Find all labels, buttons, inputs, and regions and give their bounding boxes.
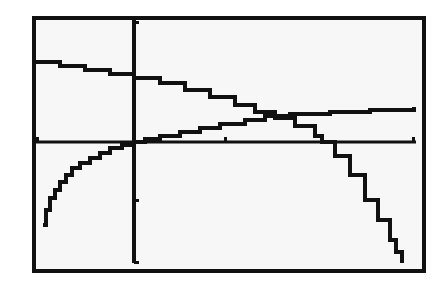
- y-tick: [134, 261, 139, 264]
- x-tick: [412, 137, 415, 142]
- graph-frame: [34, 18, 424, 271]
- calculator-graph-screen: [0, 0, 445, 282]
- y-tick: [134, 21, 139, 24]
- x-tick: [36, 137, 39, 142]
- x-tick: [224, 137, 227, 142]
- y-tick: [134, 199, 139, 202]
